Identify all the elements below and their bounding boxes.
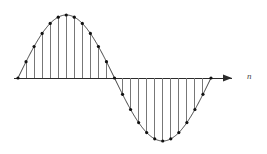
sample-marker (137, 121, 140, 124)
sample-marker (41, 32, 44, 35)
axis-label-n: n (247, 71, 252, 81)
stem-plot-figure: n (0, 0, 267, 154)
sample-marker (185, 121, 188, 124)
sample-marker (24, 60, 27, 63)
sample-marker (121, 93, 124, 96)
sample-marker (65, 13, 68, 16)
sample-marker (113, 76, 116, 79)
sample-marker (201, 93, 204, 96)
sample-marker (193, 108, 196, 111)
stem-plot-canvas (0, 0, 267, 154)
sample-marker (177, 131, 180, 134)
sample-marker (73, 16, 76, 19)
sample-marker (97, 45, 100, 48)
sample-marker (145, 131, 148, 134)
sample-marker (209, 76, 212, 79)
axis-arrow-icon (223, 75, 232, 82)
sample-marker (169, 137, 172, 140)
sample-marker (16, 76, 19, 79)
sample-marker (81, 22, 84, 25)
sample-marker (32, 45, 35, 48)
sample-marker (49, 22, 52, 25)
sample-marker (129, 108, 132, 111)
sample-marker (153, 137, 156, 140)
sample-marker (161, 139, 164, 142)
sample-marker (105, 60, 108, 63)
sample-marker (57, 16, 60, 19)
sample-marker (89, 32, 92, 35)
